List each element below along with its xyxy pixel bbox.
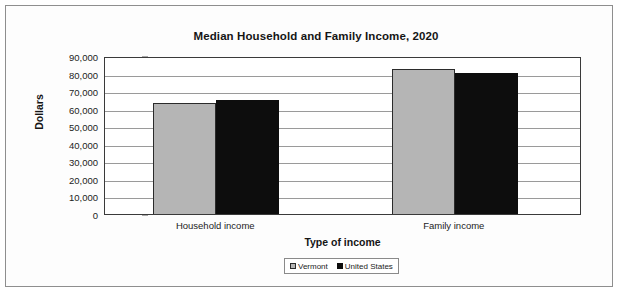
legend-swatch-icon (337, 263, 343, 269)
chart-frame: Median Household and Family Income, 2020… (5, 5, 613, 287)
legend-entry-vermont[interactable]: Vermont (290, 262, 328, 271)
y-axis-tick-label: 30,000 (50, 157, 98, 168)
chart-legend: VermontUnited States (284, 258, 399, 274)
x-axis-title: Type of income (104, 236, 581, 248)
bars-layer (105, 58, 580, 214)
bar-united-states-family-income[interactable] (455, 73, 518, 214)
y-axis-tick-label: 0 (50, 210, 98, 221)
x-axis-tick-label: Family income (351, 220, 557, 231)
legend-label: United States (345, 262, 393, 271)
bar-united-states-household-income[interactable] (216, 100, 279, 214)
y-axis-tick-label: 50,000 (50, 122, 98, 133)
y-axis-tick-label: 20,000 (50, 174, 98, 185)
y-axis-tick-label: 70,000 (50, 87, 98, 98)
y-axis-tick-label: 10,000 (50, 192, 98, 203)
plot-area (104, 57, 581, 215)
chart-title: Median Household and Family Income, 2020 (6, 30, 620, 42)
x-axis-tick-label: Household income (112, 220, 318, 231)
y-axis-tick-label: 60,000 (50, 104, 98, 115)
y-axis-tick-label: 40,000 (50, 139, 98, 150)
y-axis-title: Dollars (33, 74, 45, 150)
legend-entry-united-states[interactable]: United States (337, 262, 393, 271)
legend-label: Vermont (298, 262, 328, 271)
y-axis-tick-label: 80,000 (50, 69, 98, 80)
bar-vermont-family-income[interactable] (392, 69, 455, 214)
y-axis-tick-labels: 90,00080,00070,00060,00050,00040,00030,0… (50, 57, 98, 215)
legend-swatch-icon (290, 263, 296, 269)
bar-vermont-household-income[interactable] (153, 103, 216, 214)
y-axis-tick-label: 90,000 (50, 52, 98, 63)
